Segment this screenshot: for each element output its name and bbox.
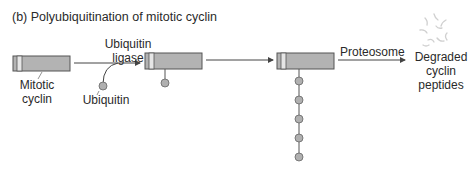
degraded-label-line3: peptides <box>411 78 471 92</box>
mitotic-label-line1: Mitotic <box>12 78 62 92</box>
mitotic-label-line2: cyclin <box>12 92 62 106</box>
polyubiquitinated-cyclin-box <box>277 53 334 69</box>
proteosome-label: Proteosome <box>340 45 404 59</box>
degraded-label-line2: cyclin <box>411 64 471 78</box>
peptide-fragments-icon <box>420 14 447 46</box>
ubiquitin-label: Ubiquitin <box>78 93 134 107</box>
ubiquitin-icon <box>161 79 169 87</box>
mitotic-cyclin-box <box>13 56 70 71</box>
diagram-canvas <box>0 0 471 172</box>
ligase-label-line2: ligase <box>100 51 156 65</box>
ligase-label-line1: Ubiquitin <box>100 37 156 51</box>
degraded-label-line1: Degraded <box>411 50 471 64</box>
free-ubiquitin-icon <box>99 82 107 90</box>
ubiquitin-join-curve <box>103 63 118 84</box>
